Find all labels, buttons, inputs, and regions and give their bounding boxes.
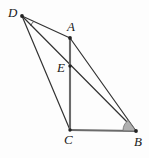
segment-AB bbox=[70, 38, 136, 131]
angle-mark-at-B bbox=[123, 120, 136, 131]
segment-DB bbox=[22, 16, 136, 131]
vertex-dot-E bbox=[68, 64, 71, 67]
vertex-dot-A bbox=[68, 36, 72, 40]
angle-mark-at-D bbox=[31, 21, 34, 25]
vertex-dot-B bbox=[134, 129, 138, 133]
vertex-label-E: E bbox=[57, 61, 65, 74]
vertex-dot-D bbox=[20, 14, 24, 18]
vertex-label-D: D bbox=[8, 6, 17, 19]
vertex-label-C: C bbox=[64, 133, 73, 146]
geometry-figure: D A E C B bbox=[0, 0, 149, 158]
vertex-label-A: A bbox=[67, 20, 75, 33]
vertex-label-B: B bbox=[134, 135, 142, 148]
segment-DA bbox=[22, 16, 70, 38]
